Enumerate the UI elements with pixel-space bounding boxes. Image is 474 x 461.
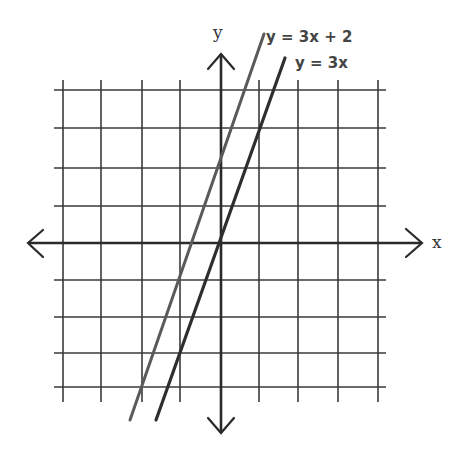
x-axis: [28, 229, 422, 257]
coordinate-plane-chart: y x y = 3x + 2 y = 3x: [0, 0, 474, 461]
chart-svg: y x y = 3x + 2 y = 3x: [0, 0, 474, 461]
x-axis-label: x: [432, 232, 442, 252]
y-axis-label: y: [212, 22, 223, 42]
equation-label-3x-plus-2: y = 3x + 2: [266, 28, 352, 46]
line-y-equals-3x-plus-2: [130, 34, 264, 420]
equation-label-3x: y = 3x: [295, 54, 348, 72]
